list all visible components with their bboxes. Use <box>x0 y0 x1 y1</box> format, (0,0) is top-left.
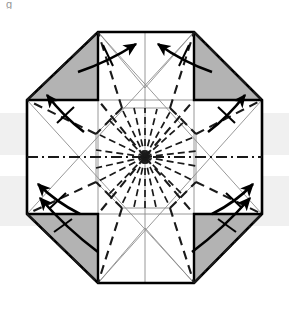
crease-pattern-canvas <box>0 0 289 311</box>
origami-diagram-figure: g <box>0 0 289 311</box>
caption-fragment: g <box>6 0 13 9</box>
